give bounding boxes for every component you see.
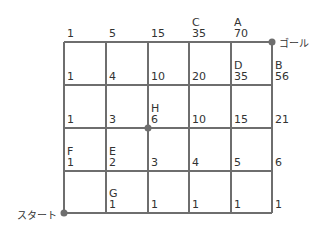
node-label: D 35: [234, 60, 248, 82]
node-label: 6: [275, 157, 282, 168]
node-label: F 1: [67, 146, 74, 168]
node-label: 1: [67, 28, 74, 39]
node-label: 1: [67, 114, 74, 125]
node-label: 1: [234, 199, 241, 210]
node-label: E 2: [109, 146, 116, 168]
node-label: 5: [234, 157, 241, 168]
node-label: 1: [192, 199, 199, 210]
node-label: 1: [151, 199, 158, 210]
node-label: B 56: [275, 60, 289, 82]
start-dot: [61, 210, 68, 217]
goal-dot: [269, 39, 276, 46]
node-label: 10: [151, 71, 165, 82]
node-label: 3: [109, 114, 116, 125]
node-label: 5: [109, 28, 116, 39]
node-label: 3: [151, 157, 158, 168]
node-label: 1: [67, 71, 74, 82]
node-label: 20: [192, 71, 206, 82]
node-label: C 35: [192, 17, 206, 39]
start-label: スタート: [17, 207, 57, 222]
goal-label: ゴール: [279, 35, 309, 50]
node-label: 15: [151, 28, 165, 39]
node-label: 4: [109, 71, 116, 82]
node-label: 10: [192, 114, 206, 125]
node-label: 1: [275, 199, 282, 210]
node-label: A 70: [234, 17, 248, 39]
node-label: 4: [192, 157, 199, 168]
node-label: 15: [234, 114, 248, 125]
node-label: H 6: [151, 103, 159, 125]
node-label: 21: [275, 114, 289, 125]
node-label: G 1: [109, 188, 118, 210]
